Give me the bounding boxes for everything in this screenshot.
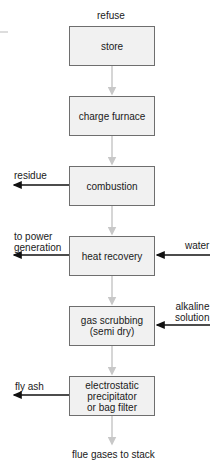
step-precipitator: electrostatic precipitator or bag filter	[69, 376, 155, 416]
step-combustion: combustion	[69, 166, 155, 206]
step-gas-scrubbing: gas scrubbing (semi dry)	[69, 306, 155, 346]
step-store: store	[69, 26, 155, 66]
step-charge-furnace: charge furnace	[69, 96, 155, 136]
input-alkaline-label: alkaline solution	[175, 301, 209, 323]
step-heat-recovery: heat recovery	[69, 236, 155, 276]
output-residue-label: residue	[14, 170, 47, 181]
output-power-label: to power generation	[14, 231, 61, 253]
output-fly-ash-label: fly ash	[15, 381, 44, 392]
input-water-label: water	[185, 240, 209, 251]
step-label: charge furnace	[79, 111, 146, 122]
step-label: combustion	[86, 181, 137, 192]
step-label: electrostatic precipitator or bag filter	[85, 380, 138, 413]
output-stack-label: flue gases to stack	[72, 449, 155, 460]
step-label: store	[101, 41, 123, 52]
step-label: gas scrubbing (semi dry)	[81, 315, 143, 337]
step-label: heat recovery	[82, 251, 143, 262]
input-refuse-label: refuse	[97, 10, 125, 21]
